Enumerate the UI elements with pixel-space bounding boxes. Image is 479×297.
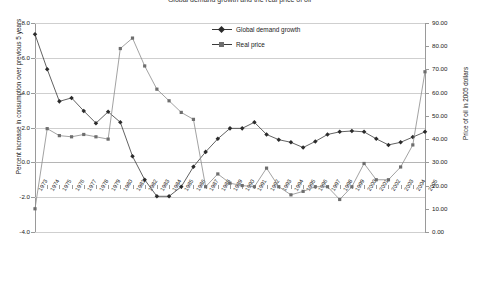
legend-label-demand: Global demand growth — [236, 26, 300, 33]
diamond-marker-icon — [240, 126, 245, 131]
diamond-marker-icon — [45, 67, 50, 72]
diamond-marker-icon — [386, 143, 391, 148]
square-marker-icon — [265, 167, 268, 170]
diamond-marker-icon — [301, 145, 306, 150]
legend-item-price: Real price — [212, 37, 300, 52]
square-marker-icon — [411, 143, 414, 146]
square-marker-icon — [192, 118, 195, 121]
square-marker-icon — [46, 127, 49, 130]
square-marker-icon — [253, 185, 256, 188]
diamond-marker-icon — [362, 130, 367, 135]
chart-container: Global demand growth and the real price … — [0, 0, 479, 297]
diamond-marker-icon — [423, 130, 428, 135]
square-marker-icon — [94, 135, 97, 138]
diamond-marker-icon — [313, 139, 318, 144]
square-marker-icon — [338, 198, 341, 201]
square-marker-icon — [107, 138, 110, 141]
square-marker-icon — [131, 36, 134, 39]
legend-item-demand: Global demand growth — [212, 22, 300, 37]
square-marker-icon — [70, 135, 73, 138]
square-marker-icon — [277, 185, 280, 188]
square-marker-icon — [119, 47, 122, 50]
diamond-marker-icon — [350, 129, 355, 134]
diamond-marker-icon — [130, 154, 135, 159]
square-marker-icon — [167, 99, 170, 102]
diamond-marker-icon — [374, 137, 379, 142]
square-marker-icon — [399, 165, 402, 168]
diamond-marker-icon — [57, 99, 62, 104]
diamond-marker-icon — [325, 132, 330, 137]
legend-label-price: Real price — [236, 41, 265, 48]
square-marker-icon — [350, 185, 353, 188]
square-marker-icon — [216, 172, 219, 175]
square-marker-icon — [82, 133, 85, 136]
square-marker-icon — [204, 185, 207, 188]
square-marker-icon — [228, 182, 231, 185]
square-marker-icon — [180, 111, 183, 114]
square-marker-icon — [155, 88, 158, 91]
square-marker-icon — [212, 44, 232, 45]
diamond-marker-icon — [337, 130, 342, 135]
diamond-marker-icon — [212, 29, 232, 30]
diamond-marker-icon — [33, 32, 38, 37]
square-marker-icon — [387, 178, 390, 181]
square-marker-icon — [314, 185, 317, 188]
square-marker-icon — [375, 178, 378, 181]
square-marker-icon — [33, 207, 36, 210]
series-line-demand — [35, 34, 425, 196]
diamond-marker-icon — [289, 140, 294, 145]
diamond-marker-icon — [398, 140, 403, 145]
diamond-marker-icon — [276, 137, 281, 142]
square-marker-icon — [289, 193, 292, 196]
chart-legend: Global demand growth Real price — [212, 22, 300, 52]
square-marker-icon — [58, 134, 61, 137]
square-marker-icon — [241, 184, 244, 187]
square-marker-icon — [423, 70, 426, 73]
square-marker-icon — [302, 190, 305, 193]
square-marker-icon — [143, 64, 146, 67]
square-marker-icon — [326, 185, 329, 188]
square-marker-icon — [362, 162, 365, 165]
